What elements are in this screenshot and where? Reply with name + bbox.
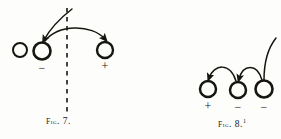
fig8-circle-positive bbox=[200, 81, 216, 97]
caption-fig-8: Fig. 8.1 bbox=[218, 118, 246, 129]
fig8-circle-negative-1 bbox=[230, 82, 246, 98]
arc-hop-left bbox=[209, 67, 236, 81]
fig8-circle-negative-2 bbox=[256, 81, 273, 98]
fig7-sign-positive: + bbox=[98, 60, 112, 72]
caption-fig-7: Fig. 7. bbox=[46, 116, 71, 126]
caption-fig-8-number: 8. bbox=[235, 119, 243, 129]
curve-tail-up bbox=[264, 38, 276, 80]
caption-fig-7-dot: . bbox=[57, 116, 60, 126]
caption-fig-8-prefix: Fig bbox=[218, 120, 229, 129]
fig8-sign-positive: + bbox=[201, 100, 215, 112]
figure-plate: − + + − − Fig. 7. Fig. 8.1 bbox=[0, 0, 281, 139]
fig7-circle-positive bbox=[97, 42, 113, 58]
caption-fig-7-number: 7. bbox=[63, 116, 71, 126]
caption-fig-8-dot: . bbox=[229, 119, 232, 129]
caption-fig-8-footnote-marker: 1 bbox=[243, 118, 247, 124]
fig7-circle-negative bbox=[34, 43, 51, 60]
fig7-sign-negative: − bbox=[35, 62, 49, 74]
arc-flat-transfer bbox=[45, 28, 105, 41]
fig-8-group bbox=[200, 38, 276, 98]
fig7-circle-plain bbox=[13, 43, 27, 57]
fig8-sign-negative-1: − bbox=[231, 101, 245, 113]
caption-fig-7-prefix: Fig bbox=[46, 117, 57, 126]
arc-hop-middle bbox=[239, 68, 262, 81]
fig8-sign-negative-2: − bbox=[257, 101, 271, 113]
